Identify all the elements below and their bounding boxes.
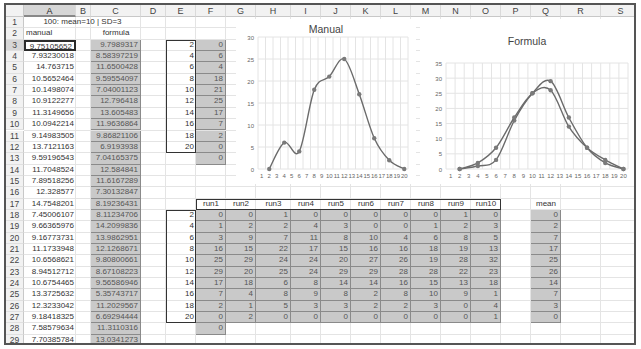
manual-value-cell[interactable]: 10.9122277 (24, 96, 76, 107)
row-header-28[interactable]: 28 (6, 323, 24, 334)
data-point-marker[interactable] (402, 167, 406, 171)
manual-value-cell[interactable]: 12.328577 (24, 187, 76, 198)
count-cell[interactable]: 6 (196, 51, 226, 62)
row-header-21[interactable]: 21 (6, 244, 24, 255)
count-overflow-cell[interactable]: 0 (196, 153, 226, 164)
run-count-cell[interactable]: 1 (411, 221, 441, 232)
manual-value-cell[interactable]: 8.94512712 (24, 267, 76, 278)
run-count-cell[interactable]: 16 (381, 278, 411, 289)
bin-cell[interactable]: 4 (166, 51, 196, 62)
run-bin-cell[interactable]: 18 (166, 301, 196, 312)
count-cell[interactable]: 0 (196, 142, 226, 153)
row-header-23[interactable]: 23 (6, 267, 24, 278)
count-cell[interactable]: 25 (196, 96, 226, 107)
row-header-26[interactable]: 26 (6, 301, 24, 312)
select-all-corner[interactable] (6, 5, 24, 17)
row-header-20[interactable]: 20 (6, 233, 24, 244)
mean-cell[interactable]: 3 (531, 301, 561, 312)
run-count-cell[interactable]: 10 (411, 289, 441, 300)
run-count-cell[interactable]: 3 (196, 233, 226, 244)
column-header-o[interactable]: O (471, 5, 501, 17)
run-count-cell[interactable]: 0 (321, 210, 351, 221)
manual-value-cell[interactable]: 14.7548201 (24, 199, 76, 210)
formula-value-cell[interactable]: 14.2099836 (91, 221, 141, 232)
formula-value-cell[interactable]: 12.796418 (91, 96, 141, 107)
formula-value-cell[interactable]: 7.30132847 (91, 187, 141, 198)
formula-value-cell[interactable]: 8.19236431 (91, 199, 141, 210)
run-bin-cell[interactable]: 12 (166, 267, 196, 278)
run-count-cell[interactable]: 4 (226, 289, 256, 300)
row-header-22[interactable]: 22 (6, 255, 24, 266)
run-count-cell[interactable]: 29 (226, 255, 256, 266)
row-header-9[interactable]: 9 (6, 108, 24, 119)
column-header-p[interactable]: P (501, 5, 531, 17)
run-count-cell[interactable]: 8 (291, 278, 321, 289)
run-count-cell[interactable]: 3 (321, 221, 351, 232)
column-header-d[interactable]: D (141, 5, 166, 17)
run-count-cell[interactable]: 13 (471, 244, 501, 255)
manual-value-cell[interactable]: 11.3149656 (24, 108, 76, 119)
manual-value-cell[interactable]: 9.59196543 (24, 153, 76, 164)
run-count-cell[interactable]: 0 (256, 312, 291, 323)
run-count-cell[interactable]: 1 (441, 210, 471, 221)
mean-cell[interactable]: 26 (531, 267, 561, 278)
row-header-7[interactable]: 7 (6, 85, 24, 96)
run-count-cell[interactable]: 27 (351, 255, 381, 266)
run-count-cell[interactable]: 18 (471, 278, 501, 289)
manual-value-cell[interactable]: 11.7048524 (24, 165, 76, 176)
data-point-marker[interactable] (327, 74, 331, 78)
run-count-cell[interactable]: 3 (471, 221, 501, 232)
run-count-cell[interactable]: 9 (441, 289, 471, 300)
manual-value-cell[interactable]: 9.16773731 (24, 233, 76, 244)
manual-value-cell[interactable]: 10.0942214 (24, 119, 76, 130)
data-point-marker[interactable] (312, 88, 316, 92)
run-count-cell[interactable]: 2 (256, 221, 291, 232)
run-header-8[interactable]: run8 (411, 199, 441, 210)
count-cell[interactable]: 17 (196, 108, 226, 119)
data-point-marker[interactable] (342, 57, 346, 61)
run-count-cell[interactable]: 8 (441, 233, 471, 244)
manual-value-cell[interactable]: 14.763715 (24, 62, 76, 73)
data-point-marker[interactable] (297, 149, 301, 153)
run-count-cell[interactable]: 4 (381, 233, 411, 244)
formula-value-cell[interactable]: 13.0341273 (91, 335, 141, 345)
run-count-cell[interactable]: 32 (471, 255, 501, 266)
data-point-marker[interactable] (585, 146, 589, 150)
run-count-cell[interactable]: 0 (351, 221, 381, 232)
run-count-cell[interactable]: 15 (321, 244, 351, 255)
manual-value-cell[interactable]: 7.89518256 (24, 176, 76, 187)
row-header-11[interactable]: 11 (6, 131, 24, 142)
row-header-25[interactable]: 25 (6, 289, 24, 300)
run-bin-cell[interactable]: 14 (166, 278, 196, 289)
run-count-cell[interactable]: 2 (351, 289, 381, 300)
data-point-marker[interactable] (548, 79, 552, 83)
mean-cell[interactable]: 25 (531, 255, 561, 266)
run-count-cell[interactable]: 8 (256, 289, 291, 300)
row-header-10[interactable]: 10 (6, 119, 24, 130)
run-count-cell[interactable]: 3 (411, 301, 441, 312)
run-bin-cell[interactable]: 2 (166, 210, 196, 221)
run-count-cell[interactable]: 8 (321, 289, 351, 300)
formula-value-cell[interactable]: 12.584841 (91, 165, 141, 176)
bin-cell[interactable]: 20 (166, 142, 196, 153)
run-count-cell[interactable]: 25 (256, 267, 291, 278)
run-count-cell[interactable]: 28 (381, 267, 411, 278)
row-header-29[interactable]: 29 (6, 335, 24, 345)
run-bin-cell[interactable]: 4 (166, 221, 196, 232)
bin-cell[interactable]: 8 (166, 74, 196, 85)
bin-cell[interactable]: 12 (166, 96, 196, 107)
run-bin-cell[interactable]: 20 (166, 312, 196, 323)
column-header-i[interactable]: I (291, 5, 321, 17)
run-bin-cell[interactable]: 10 (166, 255, 196, 266)
run-count-cell[interactable]: 1 (196, 221, 226, 232)
run-count-cell[interactable]: 16 (196, 244, 226, 255)
row-header-1[interactable]: 1 (6, 17, 24, 28)
manual-value-cell[interactable]: 7.45006107 (24, 210, 76, 221)
run-header-6[interactable]: run6 (351, 199, 381, 210)
run-count-cell[interactable]: 20 (321, 255, 351, 266)
formula-value-cell[interactable]: 7.04165375 (91, 153, 141, 164)
row-header-2[interactable]: 2 (6, 28, 24, 39)
mean-cell[interactable]: 7 (531, 233, 561, 244)
run-count-cell[interactable]: 6 (256, 278, 291, 289)
data-point-marker[interactable] (387, 158, 391, 162)
